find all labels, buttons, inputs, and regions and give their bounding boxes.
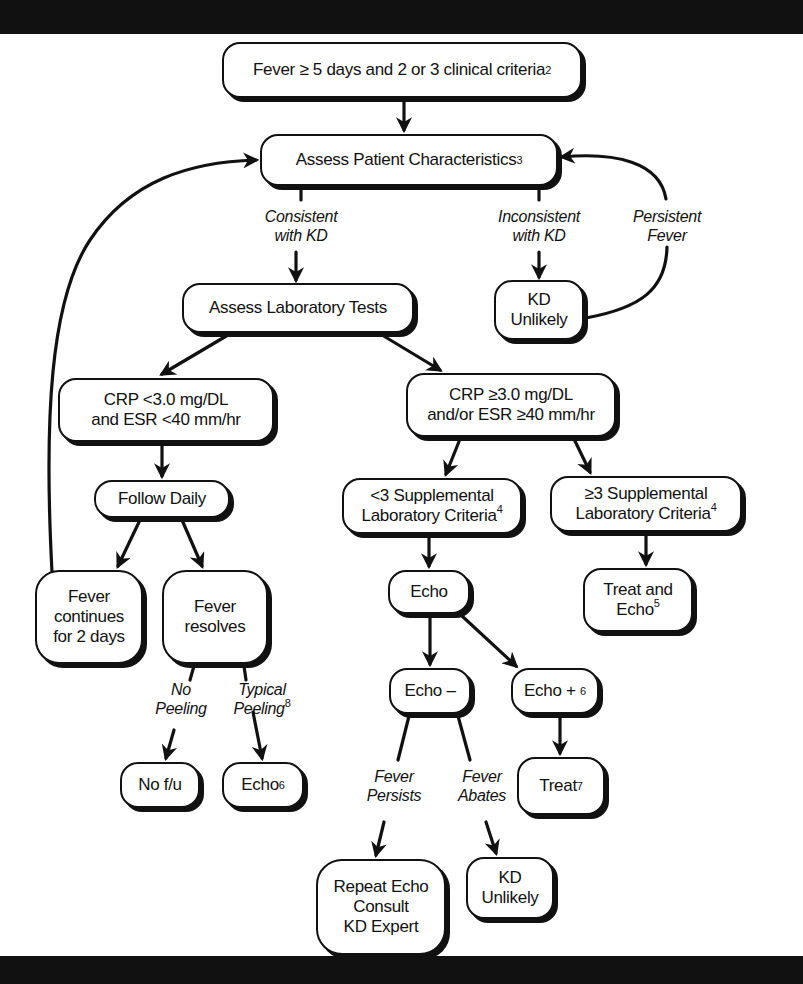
echo-after-peeling-node: Echo6: [222, 762, 304, 808]
fever-resolves-line2: resolves: [185, 617, 246, 637]
fever-continues-line1: Fever: [68, 587, 110, 607]
footnote-ref: 4: [497, 503, 503, 515]
kd-unlikely-bottom-line1: KD: [498, 868, 521, 888]
footnote-ref: 5: [654, 597, 660, 609]
assess-patient-text: Assess Patient Characteristics: [296, 150, 517, 170]
crp-high-line2: and/or ESR ≥40 mm/hr: [427, 405, 595, 425]
start-node-text: Fever ≥ 5 days and 2 or 3 clinical crite…: [253, 60, 545, 80]
footnote-ref: 4: [711, 501, 717, 513]
supp-ge3-line2: Laboratory Criteria: [576, 504, 711, 523]
kd-unlikely-bottom-line2: Unlikely: [481, 888, 538, 908]
assess-lab-node: Assess Laboratory Tests: [182, 283, 414, 333]
edge-label-persistent-fever: Persistent Fever: [622, 207, 712, 245]
echo-positive-text: Echo +: [524, 681, 580, 701]
no-followup-text: No f/u: [138, 775, 182, 795]
treat-and-echo-line1: Treat and: [603, 580, 672, 600]
echo-node: Echo: [388, 570, 470, 614]
crp-low-node: CRP <3.0 mg/DL and ESR <40 mm/hr: [58, 378, 274, 442]
crp-high-line1: CRP ≥3.0 mg/DL: [449, 385, 573, 405]
edge-label-fever-abates: Fever Abates: [442, 767, 522, 805]
edge-label-typical-peeling: Typical Peeling8: [222, 680, 302, 718]
echo-negative-node: Echo –: [389, 668, 471, 714]
treat-and-echo-line2: Echo: [616, 600, 654, 619]
echo-negative-text: Echo –: [404, 681, 455, 701]
supp-ge3-line1: ≥3 Supplemental: [585, 484, 708, 504]
repeat-echo-line3: KD Expert: [344, 917, 419, 937]
fever-resolves-node: Fever resolves: [162, 570, 268, 664]
crp-low-line1: CRP <3.0 mg/DL: [104, 390, 228, 410]
edge-label-inconsistent: Inconsistent with KD: [482, 207, 596, 245]
crp-low-line2: and ESR <40 mm/hr: [91, 410, 240, 430]
fever-resolves-line1: Fever: [194, 597, 236, 617]
treat-and-echo-node: Treat and Echo5: [583, 568, 693, 632]
follow-daily-text: Follow Daily: [118, 489, 206, 509]
echo-positive-node: Echo + 6: [511, 668, 599, 714]
kd-unlikely-top-node: KD Unlikely: [494, 280, 584, 340]
assess-patient-node: Assess Patient Characteristics3: [260, 134, 558, 186]
crp-high-node: CRP ≥3.0 mg/DL and/or ESR ≥40 mm/hr: [406, 373, 616, 437]
kd-unlikely-line2: Unlikely: [510, 310, 567, 330]
supp-lt3-line2: Laboratory Criteria: [362, 506, 497, 525]
supp-lt3-node: <3 Supplemental Laboratory Criteria4: [342, 478, 522, 534]
treat-text: Treat: [539, 776, 577, 796]
follow-daily-node: Follow Daily: [94, 480, 230, 518]
kd-unlikely-line1: KD: [527, 290, 550, 310]
edge-label-consistent: Consistent with KD: [246, 207, 356, 245]
repeat-echo-node: Repeat Echo Consult KD Expert: [316, 859, 446, 955]
fever-continues-node: Fever continues for 2 days: [35, 570, 143, 664]
edge-label-fever-persists: Fever Persists: [354, 767, 434, 805]
no-followup-node: No f/u: [120, 762, 200, 808]
echo-text: Echo: [410, 582, 448, 602]
repeat-echo-line1: Repeat Echo: [334, 877, 429, 897]
repeat-echo-line2: Consult: [353, 897, 409, 917]
edge-label-no-peeling: No Peeling: [146, 680, 216, 718]
start-node: Fever ≥ 5 days and 2 or 3 clinical crite…: [222, 42, 582, 98]
fever-continues-line3: for 2 days: [53, 627, 125, 647]
supp-ge3-node: ≥3 Supplemental Laboratory Criteria4: [550, 476, 742, 532]
echo-after-peeling-text: Echo: [241, 775, 279, 795]
supp-lt3-line1: <3 Supplemental: [370, 486, 494, 506]
fever-continues-line2: continues: [54, 607, 124, 627]
assess-lab-text: Assess Laboratory Tests: [209, 298, 387, 318]
treat-node: Treat7: [517, 757, 605, 815]
footnote-ref: 8: [285, 697, 291, 709]
kd-unlikely-bottom-node: KD Unlikely: [466, 857, 554, 919]
